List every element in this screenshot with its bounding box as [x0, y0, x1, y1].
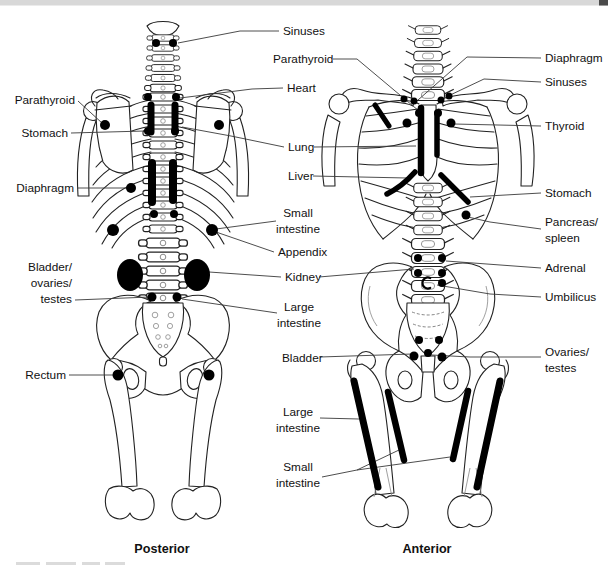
label-diaphragm-right: Diaphragm	[545, 51, 603, 65]
leader-line-sinuses-center	[178, 31, 279, 43]
book-page: SinusesParathyroidHeartLungLiverSmallint…	[0, 0, 608, 567]
label-small-intestine-center: Smallintestine	[276, 206, 320, 236]
reflex-point-dot	[415, 336, 423, 344]
reflex-point-dot	[414, 269, 422, 277]
reflex-point-dot	[169, 39, 177, 47]
reflex-point-dot	[148, 293, 157, 302]
anterior-caption: Anterior	[403, 542, 452, 556]
reflex-point-dot	[435, 336, 443, 344]
label-sinuses-center: Sinuses	[283, 24, 325, 38]
reflex-point-dot	[214, 120, 224, 130]
reflex-bar	[453, 391, 468, 459]
reflex-point-dot	[107, 224, 119, 236]
reflex-point-dot	[206, 224, 218, 236]
label-heart-center: Heart	[287, 81, 317, 95]
reflex-point-dot	[113, 370, 124, 381]
label-large-intestine-center: Largeintestine	[277, 300, 321, 330]
page-corner-mark	[599, 0, 608, 6]
kidney-reflex-ellipse	[184, 259, 210, 291]
leader-line-pancreas-spleen-right	[468, 217, 541, 229]
label-stomach-left: Stomach	[21, 126, 68, 140]
label-kidney-center: Kidney	[285, 270, 321, 284]
posterior-caption: Posterior	[134, 542, 189, 556]
label-lung-center: Lung	[288, 140, 314, 154]
reflex-point-dot	[438, 254, 446, 262]
label-adrenal-right: Adrenal	[545, 261, 586, 275]
posterior-figure	[77, 22, 248, 520]
leader-line-kidney-center	[209, 272, 281, 277]
reflex-point-dot	[438, 279, 446, 287]
reflex-point-dot	[438, 269, 446, 277]
reflex-point-dot	[438, 353, 447, 362]
label-bladder-ovaries-testes-left: Bladder/ovaries/testes	[28, 260, 73, 306]
label-parathyroid-center: Parathyroid	[273, 52, 333, 66]
reflex-point-dot	[411, 98, 418, 105]
reflex-point-dot	[438, 97, 445, 104]
reflex-point-dot	[172, 93, 180, 101]
leader-line-appendix-center	[216, 232, 274, 252]
label-ovaries-testes-right: Ovaries/testes	[545, 345, 590, 375]
reflex-point-dot	[173, 293, 182, 302]
reflex-point-dot	[126, 183, 136, 193]
label-bladder-center: Bladder	[282, 351, 323, 365]
reflex-bar	[375, 105, 389, 126]
label-rectum-left: Rectum	[25, 368, 66, 382]
kidney-reflex-ellipse	[117, 259, 143, 291]
page-edge-strip	[0, 0, 608, 6]
reflex-point-dot	[447, 119, 456, 128]
label-appendix-center: Appendix	[278, 245, 327, 259]
reflex-point-dot	[170, 210, 178, 218]
reflex-point-dot	[401, 96, 408, 103]
anatomy-diagram: SinusesParathyroidHeartLungLiverSmallint…	[0, 0, 608, 567]
leader-line-large-intestine-lower	[320, 418, 359, 419]
label-thyroid-right: Thyroid	[545, 119, 584, 133]
label-diaphragm-left: Diaphragm	[16, 181, 74, 195]
reflex-point-dot	[150, 210, 158, 218]
reflex-point-dot	[403, 119, 412, 128]
label-umbilicus-right: Umbilicus	[545, 290, 596, 304]
label-liver-center: Liver	[288, 169, 314, 183]
cropped-caption-fragment	[16, 562, 125, 565]
reflex-curved-bar	[441, 175, 468, 202]
leader-line-stomach-right	[470, 193, 541, 197]
reflex-point-dot	[462, 211, 471, 220]
reflex-bar	[388, 392, 404, 460]
label-large-intestine-lower: Largeintestine	[276, 405, 320, 435]
label-small-intestine-lower: Smallintestine	[276, 460, 320, 490]
reflex-curved-bar	[387, 172, 415, 194]
reflex-point-dot	[100, 120, 110, 130]
reflex-point-dot	[424, 349, 432, 357]
reflex-point-dot	[144, 93, 152, 101]
reflex-point-dot	[414, 254, 422, 262]
label-pancreas-spleen-right: Pancreas/spleen	[545, 215, 599, 245]
label-stomach-right: Stomach	[545, 186, 592, 200]
reflex-point-dot	[410, 352, 419, 361]
label-parathyroid-left: Parathyroid	[15, 93, 75, 107]
leader-line-heart-center	[180, 88, 283, 98]
reflex-point-dot	[152, 39, 160, 47]
reflex-point-dot	[204, 370, 215, 381]
reflex-point-dot	[446, 93, 453, 100]
label-sinuses-right: Sinuses	[545, 75, 587, 89]
